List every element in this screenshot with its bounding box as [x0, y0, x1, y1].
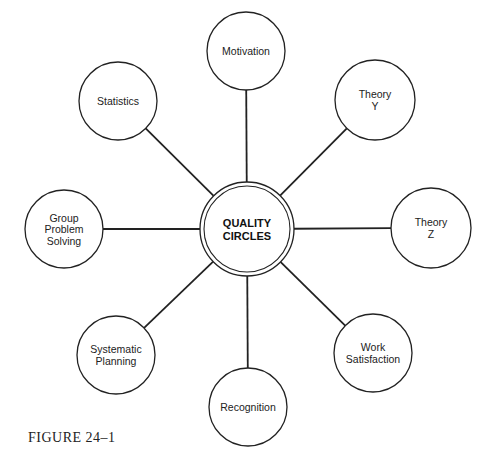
connector-theory-z — [294, 228, 391, 229]
center-label: QUALITY — [223, 217, 272, 229]
node-theory-z: TheoryZ — [391, 188, 471, 268]
node-label: Planning — [96, 355, 137, 367]
node-label: Group — [49, 212, 78, 224]
connector-statistics — [146, 128, 214, 195]
connector-recognition — [247, 276, 248, 368]
node-label: Solving — [47, 235, 82, 247]
quality-circles-diagram: MotivationTheoryYTheoryZWorkSatisfaction… — [0, 0, 499, 472]
node-group-problem-solving: GroupProblemSolving — [25, 190, 103, 268]
center-label: CIRCLES — [223, 230, 271, 242]
connector-theory-y — [280, 128, 347, 195]
node-label: Z — [428, 228, 435, 240]
node-systematic-planning: SystematicPlanning — [77, 316, 155, 394]
node-theory-y: TheoryY — [335, 60, 415, 140]
node-label: Theory — [359, 88, 392, 100]
center-node: QUALITYCIRCLES — [200, 182, 294, 276]
node-label: Recognition — [220, 401, 276, 413]
node-label: Motivation — [222, 45, 270, 57]
connector-work-satisfaction — [280, 262, 345, 326]
node-label: Work — [361, 341, 386, 353]
connector-motivation — [246, 90, 247, 182]
node-work-satisfaction: WorkSatisfaction — [334, 314, 412, 392]
node-label: Systematic — [90, 343, 141, 355]
node-label: Problem — [44, 223, 83, 235]
node-recognition: Recognition — [209, 368, 287, 446]
node-label: Theory — [415, 216, 448, 228]
node-motivation: Motivation — [207, 12, 285, 90]
node-label: Satisfaction — [346, 353, 400, 365]
node-statistics: Statistics — [79, 62, 157, 140]
node-label: Statistics — [97, 95, 139, 107]
node-label: Y — [371, 100, 378, 112]
connector-systematic-planning — [144, 262, 213, 328]
figure-caption: FIGURE 24–1 — [28, 430, 116, 446]
